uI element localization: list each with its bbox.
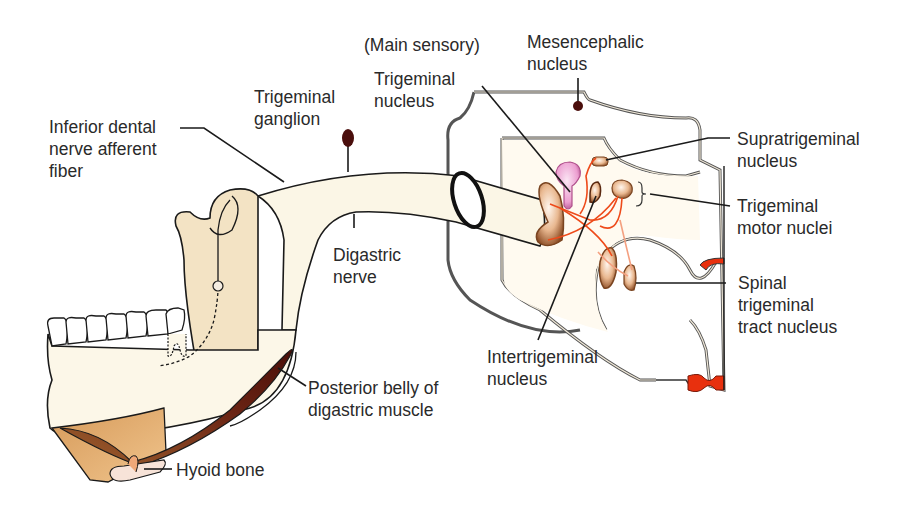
label-supratrigeminal-nucleus: Supratrigeminal nucleus: [737, 128, 860, 172]
label-spinal-trigeminal-tract-nucleus: Spinal trigeminal tract nucleus: [738, 272, 837, 338]
label-hyoid-bone: Hyoid bone: [176, 459, 265, 481]
mesencephalic-nucleus-dot: [573, 101, 583, 111]
label-trigeminal-ganglion: Trigeminal ganglion: [254, 86, 335, 130]
label-mesencephalic-nucleus: Mesencephalic nucleus: [527, 31, 644, 75]
trigeminal-motor-nucleus-small: [612, 180, 632, 198]
label-main-sensory: (Main sensory): [364, 34, 480, 56]
spinal-trigeminal-nucleus-shape: [624, 265, 636, 291]
label-posterior-belly-digastric: Posterior belly of digastric muscle: [308, 377, 438, 421]
label-inferior-dental-nerve: Inferior dental nerve afferent fiber: [49, 116, 157, 182]
label-digastric-nerve: Digastric nerve: [333, 244, 401, 288]
trigeminal-ganglion-icon: [342, 129, 354, 147]
diagram-canvas: (Main sensory) Trigeminal nucleus Mesenc…: [0, 0, 910, 507]
red-marker-lower: [688, 374, 724, 391]
label-trigeminal-motor-nuclei: Trigeminal motor nuclei: [737, 195, 832, 239]
label-intertrigeminal-nucleus: Intertrigeminal nucleus: [487, 346, 598, 390]
label-trigeminal-nucleus: Trigeminal nucleus: [374, 68, 455, 112]
